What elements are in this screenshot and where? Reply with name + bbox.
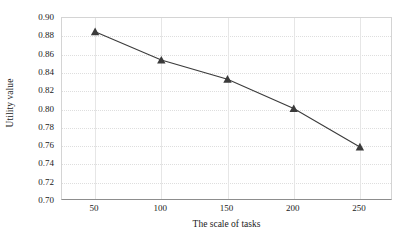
series-line bbox=[95, 32, 360, 147]
x-tick-label: 150 bbox=[220, 203, 234, 213]
data-point-marker bbox=[290, 104, 298, 112]
y-tick-label: 0.88 bbox=[38, 30, 54, 40]
y-tick-label: 0.82 bbox=[38, 85, 54, 95]
y-axis-title-label: Utility value bbox=[5, 78, 15, 127]
x-tick-label: 100 bbox=[154, 203, 168, 213]
x-tick-label: 200 bbox=[286, 203, 300, 213]
series-layer bbox=[62, 18, 392, 200]
utility-value-line-chart: Utility value 0.900.880.860.840.820.800.… bbox=[0, 0, 411, 249]
y-tick-label: 0.90 bbox=[38, 12, 54, 22]
x-axis-tick-labels: 50100150200250 bbox=[61, 203, 392, 219]
x-axis-title: The scale of tasks bbox=[61, 219, 392, 229]
y-tick-label: 0.78 bbox=[38, 122, 54, 132]
series-markers bbox=[91, 28, 364, 151]
x-axis-title-label: The scale of tasks bbox=[193, 219, 261, 229]
y-axis-tick-labels: 0.900.880.860.840.820.800.780.760.740.72… bbox=[20, 17, 58, 200]
x-tick-label: 50 bbox=[90, 203, 99, 213]
y-tick-label: 0.86 bbox=[38, 49, 54, 59]
data-point-marker bbox=[91, 28, 99, 36]
x-tick-label: 250 bbox=[352, 203, 366, 213]
data-point-marker bbox=[157, 56, 165, 64]
data-point-marker bbox=[356, 143, 364, 151]
y-tick-label: 0.74 bbox=[38, 158, 54, 168]
y-tick-label: 0.76 bbox=[38, 140, 54, 150]
y-tick-label: 0.80 bbox=[38, 104, 54, 114]
y-tick-label: 0.70 bbox=[38, 195, 54, 205]
y-tick-label: 0.72 bbox=[38, 177, 54, 187]
y-tick-label: 0.84 bbox=[38, 67, 54, 77]
plot-area bbox=[61, 17, 392, 200]
y-axis-title: Utility value bbox=[0, 0, 20, 205]
